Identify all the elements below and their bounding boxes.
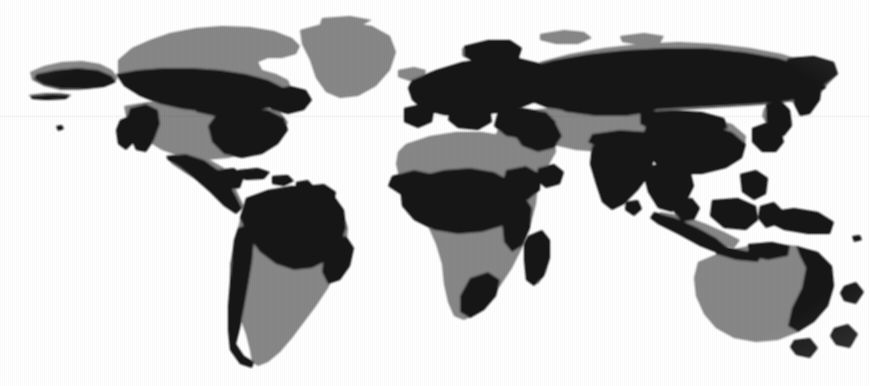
land-greenland bbox=[300, 22, 396, 98]
accent-borneo bbox=[710, 198, 758, 230]
accent-madagascar bbox=[524, 230, 550, 286]
land-severnaya bbox=[620, 33, 664, 45]
world-map-svg bbox=[0, 0, 870, 386]
accent-philippines bbox=[740, 170, 768, 200]
world-map-figure bbox=[0, 0, 870, 386]
accent-sierra bbox=[116, 116, 136, 150]
accent-fiji-dots bbox=[852, 235, 862, 242]
accent-new-guinea bbox=[768, 208, 834, 234]
accent-sri-lanka bbox=[625, 200, 642, 216]
land-novaya-zemlya bbox=[540, 30, 592, 44]
accent-hawaii-dots bbox=[56, 125, 64, 131]
accent-yemen-oman bbox=[536, 164, 564, 188]
accent-tasmania bbox=[790, 338, 818, 358]
accent-new-zealand-south bbox=[830, 324, 858, 348]
accent-hispaniola bbox=[272, 175, 294, 186]
accent-italy-balkans bbox=[448, 106, 492, 130]
accent-new-zealand-north bbox=[840, 282, 864, 304]
